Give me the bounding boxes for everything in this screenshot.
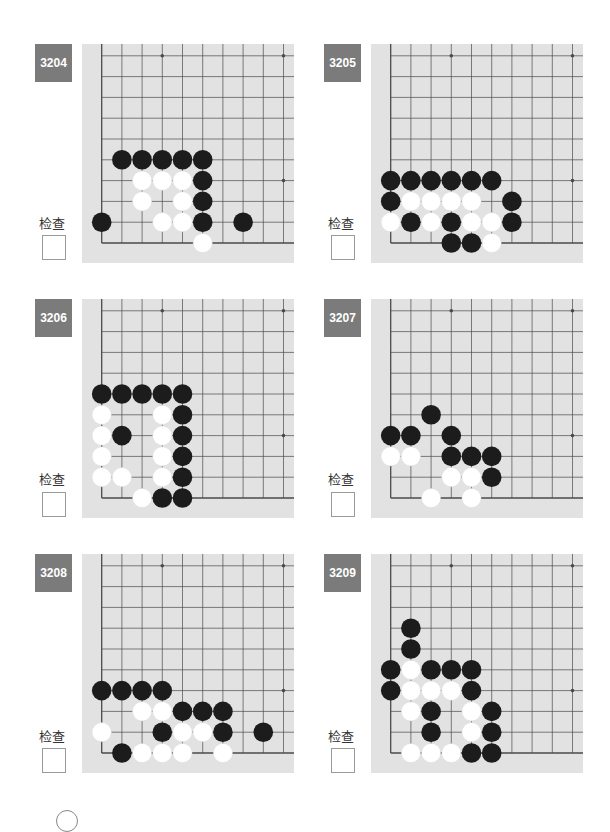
black-stone: [112, 150, 132, 170]
black-stone: [213, 722, 233, 742]
black-stone: [193, 171, 213, 191]
black-stone: [482, 447, 502, 467]
black-stone: [153, 681, 173, 701]
go-board[interactable]: [82, 554, 294, 773]
white-stone: [153, 213, 172, 232]
check-label: 检查: [328, 726, 354, 745]
black-stone: [462, 743, 482, 763]
white-stone: [401, 681, 420, 700]
go-board[interactable]: [82, 299, 294, 518]
star-point: [450, 54, 454, 58]
black-stone: [173, 702, 193, 722]
star-point: [450, 309, 454, 313]
black-stone: [153, 488, 173, 508]
black-stone: [502, 212, 522, 232]
black-stone: [401, 426, 421, 446]
black-stone: [92, 384, 112, 404]
go-board[interactable]: [82, 44, 294, 263]
black-stone: [233, 212, 253, 232]
black-stone: [421, 660, 441, 680]
black-stone: [112, 384, 132, 404]
white-stone: [401, 660, 420, 679]
black-stone: [482, 743, 502, 763]
white-stone: [401, 743, 420, 762]
go-board[interactable]: [371, 44, 583, 263]
black-stone: [482, 171, 502, 191]
white-stone: [153, 426, 172, 445]
black-stone: [112, 743, 132, 763]
go-board[interactable]: [371, 299, 583, 518]
problem-3208: 3208 检查: [35, 554, 335, 784]
problem-number-label: 3204: [35, 44, 72, 82]
white-stone: [462, 723, 481, 742]
star-point: [282, 564, 286, 568]
page-number-circle: [56, 810, 78, 832]
white-stone: [133, 192, 152, 211]
star-point: [282, 179, 286, 183]
black-stone: [462, 233, 482, 253]
black-stone: [442, 426, 462, 446]
star-point: [282, 434, 286, 438]
problem-number-label: 3205: [324, 44, 361, 82]
black-stone: [421, 171, 441, 191]
check-box[interactable]: [331, 748, 355, 773]
black-stone: [193, 212, 213, 232]
check-box[interactable]: [331, 492, 355, 517]
problem-number-label: 3206: [35, 299, 72, 337]
black-stone: [401, 212, 421, 232]
star-point: [161, 564, 165, 568]
white-stone: [153, 447, 172, 466]
check-box[interactable]: [331, 235, 355, 260]
black-stone: [442, 233, 462, 253]
black-stone: [442, 660, 462, 680]
check-box[interactable]: [42, 235, 66, 260]
white-stone: [153, 468, 172, 487]
black-stone: [421, 722, 441, 742]
problem-number-label: 3208: [35, 554, 72, 592]
problem-number-label: 3209: [324, 554, 361, 592]
black-stone: [193, 192, 213, 212]
go-board[interactable]: [371, 554, 583, 773]
star-point: [282, 309, 286, 313]
black-stone: [502, 192, 522, 212]
white-stone: [462, 468, 481, 487]
black-stone: [193, 702, 213, 722]
black-stone: [421, 702, 441, 722]
white-stone: [92, 723, 111, 742]
star-point: [282, 54, 286, 58]
check-box[interactable]: [42, 492, 66, 517]
white-stone: [133, 743, 152, 762]
star-point: [571, 309, 575, 313]
white-stone: [173, 213, 192, 232]
white-stone: [133, 488, 152, 507]
black-stone: [153, 384, 173, 404]
white-stone: [133, 171, 152, 190]
black-stone: [381, 171, 401, 191]
check-label: 检查: [39, 213, 65, 232]
problem-3206: 3206 检查: [35, 299, 335, 529]
black-stone: [112, 426, 132, 446]
check-label: 检查: [328, 469, 354, 488]
black-stone: [401, 171, 421, 191]
white-stone: [442, 743, 461, 762]
black-stone: [92, 681, 112, 701]
black-stone: [462, 447, 482, 467]
white-stone: [173, 171, 192, 190]
black-stone: [381, 192, 401, 212]
black-stone: [381, 660, 401, 680]
white-stone: [193, 723, 212, 742]
white-stone: [153, 405, 172, 424]
black-stone: [173, 150, 193, 170]
star-point: [161, 309, 165, 313]
white-stone: [442, 192, 461, 211]
check-box[interactable]: [42, 748, 66, 773]
star-point: [571, 179, 575, 183]
white-stone: [401, 447, 420, 466]
black-stone: [173, 426, 193, 446]
white-stone: [422, 213, 441, 232]
black-stone: [442, 171, 462, 191]
white-stone: [213, 743, 232, 762]
black-stone: [442, 212, 462, 232]
problem-number-label: 3207: [324, 299, 361, 337]
white-stone: [482, 233, 501, 252]
